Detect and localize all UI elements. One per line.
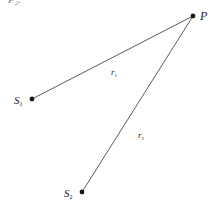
segment-r2 — [82, 16, 193, 192]
point-p — [191, 14, 196, 19]
label-s2: S2 — [64, 187, 73, 200]
two-source-path-diagram: P₂. P S1 S2 r1 r2 — [0, 0, 216, 212]
cropped-header-text: P₂. — [7, 0, 21, 5]
label-p: P — [199, 9, 208, 23]
point-s2 — [80, 190, 85, 195]
point-s1 — [30, 97, 35, 102]
segment-r1 — [32, 16, 193, 99]
label-s1: S1 — [14, 94, 23, 107]
label-r1: r1 — [111, 67, 118, 78]
label-r2: r2 — [138, 130, 145, 141]
